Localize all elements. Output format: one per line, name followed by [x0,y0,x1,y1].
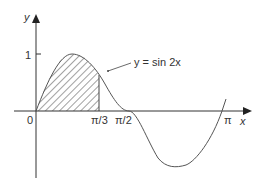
function-label: y = sin 2x [134,56,181,68]
pi-label: π [224,114,232,126]
y-axis-arrow-icon [32,14,40,23]
x-axis-arrow-icon [243,107,252,115]
sine-diagram: y x 1 0 π/3 π/2 π y = sin 2x [0,0,263,182]
pi-over-2-label: π/2 [115,114,132,126]
y-axis-label: y [23,11,31,23]
x-axis-label: x [239,115,246,127]
pi-over-3-label: π/3 [91,114,108,126]
leader-dot [107,70,109,72]
y-tick-label-one: 1 [25,49,31,61]
origin-label: 0 [27,114,33,126]
label-leader-line [108,63,131,71]
